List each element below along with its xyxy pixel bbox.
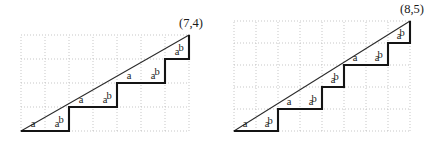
- step-labels-right: aabaababaabab: [243, 27, 405, 129]
- step-label-a: a: [127, 70, 132, 81]
- step-label-a: a: [243, 118, 248, 129]
- step-label-b: b: [267, 115, 272, 126]
- step-label-b: b: [58, 114, 63, 125]
- step-labels-left: aabaabaabab: [31, 42, 184, 129]
- step-label-b: b: [311, 93, 316, 104]
- figure-root: aabaabaabab (7,4) aabaababaabab (8,5): [0, 0, 432, 153]
- diagram-panel-right: aabaababaabab (8,5): [216, 0, 432, 153]
- step-label-b: b: [154, 66, 159, 77]
- step-label-b: b: [377, 49, 382, 60]
- step-label-a: a: [287, 96, 292, 107]
- step-label-a: a: [31, 118, 36, 129]
- corner-label-right: (8,5): [400, 2, 424, 16]
- step-label-b: b: [333, 71, 338, 82]
- step-label-b: b: [178, 42, 183, 53]
- step-label-a: a: [353, 52, 358, 63]
- step-label-b: b: [399, 27, 404, 38]
- lattice-diagram-right-svg: aabaababaabab (8,5): [216, 0, 432, 153]
- step-label-a: a: [79, 94, 84, 105]
- corner-label-left: (7,4): [179, 16, 203, 30]
- lattice-diagram-left-svg: aabaabaabab (7,4): [0, 0, 216, 153]
- step-label-b: b: [106, 90, 111, 101]
- diagram-panel-left: aabaabaabab (7,4): [0, 0, 216, 153]
